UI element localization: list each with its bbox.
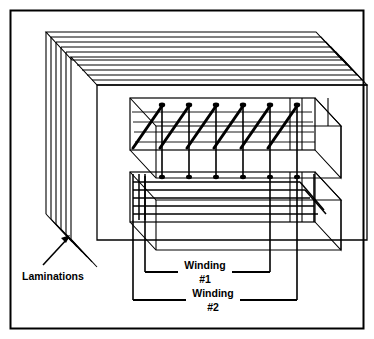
winding-1-number: #1 xyxy=(199,273,211,285)
winding-2-number: #2 xyxy=(207,301,219,313)
transformer-core-figure: Winding #1 Winding #2 Laminations xyxy=(0,0,374,339)
diagram-canvas: Winding #1 Winding #2 Laminations xyxy=(0,0,374,339)
winding-2-label: Winding xyxy=(192,287,233,299)
laminations-label: Laminations xyxy=(22,270,84,282)
winding-1-label: Winding xyxy=(184,259,225,271)
